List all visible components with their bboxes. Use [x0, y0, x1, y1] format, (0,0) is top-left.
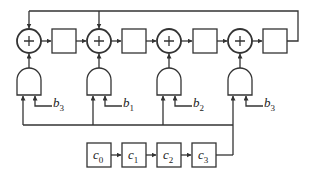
adder-2	[157, 29, 181, 53]
b-label-1: b1	[123, 96, 134, 113]
b-label-2: b2	[193, 96, 204, 113]
and-gate-2	[157, 54, 181, 95]
circuit-diagram	[0, 0, 310, 175]
adder-0	[17, 29, 41, 53]
b-label-3: b3	[264, 96, 275, 113]
b-label-0: b3	[53, 96, 64, 113]
register-1	[122, 29, 146, 53]
adder-1	[87, 29, 111, 53]
c-label-3: c3	[198, 148, 208, 165]
adder-3	[228, 29, 252, 53]
and-gate-0	[17, 54, 41, 95]
feedback-line	[29, 11, 298, 41]
register-0	[52, 29, 76, 53]
and-gate-3	[228, 54, 252, 95]
c-label-2: c2	[163, 148, 173, 165]
register-2	[193, 29, 217, 53]
c-label-1: c1	[128, 148, 138, 165]
register-3	[263, 29, 287, 53]
and-gate-1	[87, 54, 111, 95]
c-label-0: c0	[93, 148, 103, 165]
